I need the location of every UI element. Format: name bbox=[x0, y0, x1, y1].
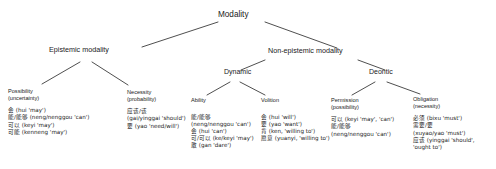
leaf-permission: Permission (possibility) 可以 (keyi 'may',… bbox=[331, 97, 394, 138]
modality-taxonomy-diagram: Modality Epistemic modality Non-epistemi… bbox=[0, 0, 496, 169]
leaf-item: (xuyao/yao 'must') bbox=[413, 130, 475, 137]
leaf-item: 必须 (bixu 'must') bbox=[413, 115, 475, 122]
leaf-permission-head: Permission bbox=[331, 97, 394, 104]
leaf-possibility-sub: (uncertainty) bbox=[8, 95, 90, 102]
leaf-item: 可能 (kenneng 'may') bbox=[8, 129, 90, 136]
node-deontic: Deontic bbox=[369, 68, 393, 75]
leaf-item: 可以 (keyi 'may') bbox=[8, 122, 90, 129]
leaf-obligation: Obligation (necessity) 必须 (bixu 'must') … bbox=[413, 96, 475, 151]
edge-deontic-obligation bbox=[387, 82, 420, 94]
edge-epistemic-possibility bbox=[42, 62, 80, 84]
leaf-obligation-sub: (necessity) bbox=[413, 103, 475, 110]
leaf-item: 肯 (ken, 'willing to') bbox=[261, 128, 330, 135]
node-modality: Modality bbox=[218, 11, 249, 19]
leaf-permission-sub: (possibility) bbox=[331, 104, 394, 111]
leaf-possibility-items: 会 (hui 'may') 能/能够 (neng/nenggou 'can') … bbox=[8, 107, 90, 136]
leaf-item: 能/能够 (neng/nenggou 'can') bbox=[8, 114, 90, 121]
node-epistemic-modality: Epistemic modality bbox=[49, 46, 109, 53]
leaf-possibility: Possibility (uncertainty) 会 (hui 'may') … bbox=[8, 88, 90, 136]
leaf-item: (gai/yinggai 'should') bbox=[127, 115, 186, 122]
leaf-volition: Volition 会 (hui 'will') 要 (yao 'want') 肯… bbox=[261, 97, 330, 142]
leaf-item: 应该/该 bbox=[127, 108, 186, 115]
leaf-necessity-items: 应该/该 (gai/yinggai 'should') 要 (yao 'need… bbox=[127, 108, 186, 129]
edge-deontic-permission bbox=[352, 82, 375, 95]
leaf-item: 敢 (gan 'dare') bbox=[191, 142, 254, 149]
node-dynamic: Dynamic bbox=[224, 68, 251, 75]
edge-modality-epistemic bbox=[142, 22, 218, 47]
edge-dynamic-ability bbox=[207, 82, 230, 95]
leaf-item: 会 (hui 'will') bbox=[261, 114, 330, 121]
leaf-item: 能/能够 bbox=[331, 123, 394, 130]
edge-modality-nonepistemic bbox=[265, 22, 337, 48]
edge-epistemic-necessity bbox=[92, 62, 128, 85]
leaf-item: (neng/nenggou 'can') bbox=[331, 131, 394, 138]
leaf-permission-items: 可以 (keyi 'may', 'can') 能/能够 (neng/nenggo… bbox=[331, 116, 394, 137]
leaf-necessity-sub: (probability) bbox=[127, 96, 186, 103]
edge-dynamic-volition bbox=[240, 82, 265, 95]
leaf-item: 'ought to') bbox=[413, 144, 475, 151]
leaf-necessity-head: Necessity bbox=[127, 89, 186, 96]
leaf-ability-items: 能/能够 (neng/nenggou 'can') 会 (hui 'can') … bbox=[191, 114, 254, 150]
leaf-ability-head: Ability bbox=[191, 97, 254, 104]
leaf-item: 要 (yao 'want') bbox=[261, 121, 330, 128]
leaf-item: 要 (yao 'need/will') bbox=[127, 123, 186, 130]
leaf-item: 会 (hui 'can') bbox=[191, 128, 254, 135]
leaf-volition-items: 会 (hui 'will') 要 (yao 'want') 肯 (ken, 'w… bbox=[261, 114, 330, 143]
leaf-volition-head: Volition bbox=[261, 97, 330, 104]
leaf-possibility-head: Possibility bbox=[8, 88, 90, 95]
leaf-obligation-items: 必须 (bixu 'must') 需要/要 (xuyao/yao 'must')… bbox=[413, 115, 475, 151]
leaf-item: (neng/nenggou 'can') bbox=[191, 121, 254, 128]
leaf-item: 应该 (yinggai 'should', bbox=[413, 137, 475, 144]
leaf-necessity: Necessity (probability) 应该/该 (gai/yingga… bbox=[127, 89, 186, 130]
leaf-item: 能/能够 bbox=[191, 114, 254, 121]
leaf-item: 需要/要 bbox=[413, 122, 475, 129]
leaf-item: 愿意 (yuanyi, 'willing to') bbox=[261, 135, 330, 142]
leaf-ability: Ability 能/能够 (neng/nenggou 'can') 会 (hui… bbox=[191, 97, 254, 149]
node-non-epistemic-modality: Non-epistemic modality bbox=[268, 47, 343, 54]
leaf-obligation-head: Obligation bbox=[413, 96, 475, 103]
